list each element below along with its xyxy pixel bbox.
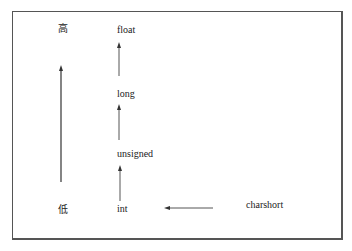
arrows-layer [0, 0, 352, 251]
